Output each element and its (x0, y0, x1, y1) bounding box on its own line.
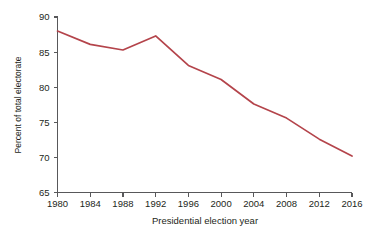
data-series-line (58, 31, 353, 156)
chart-axes (58, 17, 353, 193)
y-tick-label: 65 (39, 187, 50, 198)
x-tick-label: 2008 (276, 198, 297, 209)
x-tick-label: 2004 (243, 198, 264, 209)
x-tick-label: 2000 (211, 198, 232, 209)
x-tick-label: 1980 (47, 198, 68, 209)
x-tick-label: 1988 (112, 198, 133, 209)
x-axis-title: Presidential election year (152, 215, 258, 226)
y-tick-label: 70 (39, 152, 50, 163)
y-axis-ticks: 657075808590 (39, 11, 58, 198)
x-tick-label: 1992 (145, 198, 166, 209)
chart-container: 657075808590 198019841988199219962000200… (0, 0, 370, 233)
y-tick-label: 85 (39, 47, 50, 58)
x-tick-label: 1996 (178, 198, 199, 209)
y-axis-title: Percent of total electorate (13, 56, 23, 153)
y-tick-label: 90 (39, 11, 50, 22)
y-tick-label: 75 (39, 117, 50, 128)
x-axis-ticks: 1980198419881992199620002004200820122016 (47, 193, 363, 209)
x-tick-label: 1984 (80, 198, 101, 209)
x-tick-label: 2012 (309, 198, 330, 209)
line-chart: 657075808590 198019841988199219962000200… (0, 0, 370, 233)
x-tick-label: 2016 (341, 198, 362, 209)
y-tick-label: 80 (39, 82, 50, 93)
